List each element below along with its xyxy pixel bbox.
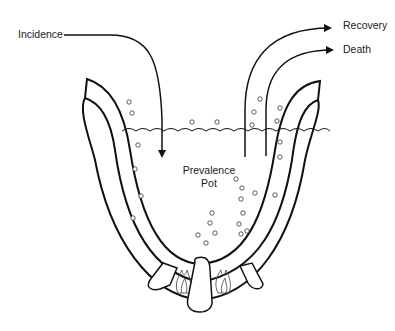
pot-spigot: [188, 257, 213, 312]
recovery-arrow: [245, 28, 330, 157]
incidence-label: Incidence: [18, 28, 63, 40]
liquid-surface: [122, 129, 330, 132]
pot-label-line2: Pot: [176, 177, 242, 190]
pot-label: Prevalence Pot: [176, 164, 242, 190]
pot-label-line1: Prevalence: [176, 164, 242, 177]
death-label: Death: [343, 43, 371, 55]
recovery-label: Recovery: [343, 19, 387, 31]
